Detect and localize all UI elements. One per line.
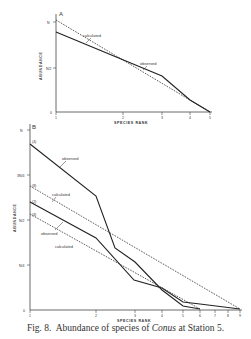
svg-text:4: 4 [161,314,163,318]
panel-b-observed-upper-line [30,144,200,309]
panel-b: B N 3N/4 N/2 N/4 0 ABUNDANCE 1 [13,124,242,323]
svg-text:9: 9 [239,314,241,318]
svg-text:0: 0 [23,309,25,313]
panel-b-calculated-lower-line [30,214,200,309]
svg-text:2: 2 [95,314,97,318]
svg-text:1: 1 [29,314,31,318]
svg-text:3: 3 [161,116,163,120]
panel-b-calculated-lower-label: calculated [55,244,73,249]
panel-a-letter: A [59,11,63,17]
caption-text-after: at Station 5. [178,323,224,333]
panel-b-ylabel: ABUNDANCE [13,203,17,232]
panel-b-observed-upper-label: observed [62,156,78,161]
panel-a-xticks: 1 2 3 4 5 [55,112,211,120]
panel-a: A N N/2 0 ABUNDANCE 1 2 3 4 5 SPECIES RA… [39,11,212,125]
caption-text-before: Abundance of species of [56,323,150,333]
svg-text:4: 4 [189,116,191,120]
svg-text:1: 1 [55,116,57,120]
caption-genus: Conus [152,323,176,333]
panel-a-ylabel: ABUNDANCE [39,51,43,80]
svg-text:5: 5 [182,314,184,318]
panel-a-ytick-top: N [47,21,50,25]
svg-text:3: 3 [134,314,136,318]
figure-canvas: A N N/2 0 ABUNDANCE 1 2 3 4 5 SPECIES RA… [0,0,251,339]
panel-b-start-label-4: (3) [32,213,36,217]
svg-text:7: 7 [214,314,216,318]
svg-text:N/4: N/4 [19,264,25,268]
panel-a-calculated-label: calculated [83,33,101,38]
panel-b-start-label-1: (4) [32,140,36,144]
panel-b-yticks: N 3N/4 N/2 N/4 0 [17,129,30,313]
svg-text:5: 5 [209,116,211,120]
panel-a-ytick-zero: 0 [50,111,52,115]
panel-b-observed-lower-label: observed [41,231,57,236]
panel-b-calculated-upper-label: calculated [52,192,70,197]
panel-b-observed-lower-line [30,202,240,309]
panel-a-observed-line [56,32,210,112]
figure-caption: Fig. 8. Abundance of species of Conus at… [0,323,251,333]
panel-b-xticks: 1 2 3 4 5 6 7 8 9 [29,310,241,318]
svg-text:8: 8 [227,314,229,318]
svg-text:2: 2 [122,116,124,120]
svg-text:N: N [20,129,23,133]
panel-a-calculated-line [56,20,210,112]
svg-text:6: 6 [199,314,201,318]
caption-prefix: Fig. 8. [27,323,52,333]
panel-a-xlabel: SPECIES RANK [114,121,148,125]
panel-a-ytick-mid: N/2 [46,67,52,71]
svg-text:3N/4: 3N/4 [17,174,24,178]
panel-a-observed-label: observed [140,61,156,66]
panel-b-letter: B [32,124,36,130]
svg-text:N/2: N/2 [19,219,25,223]
